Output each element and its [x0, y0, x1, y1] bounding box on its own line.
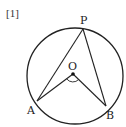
angle-marker-AOB — [67, 79, 79, 82]
circle-diagram: P O A B — [0, 0, 126, 127]
segment-OA — [37, 74, 73, 101]
label-A: A — [26, 104, 36, 117]
label-P: P — [80, 14, 88, 27]
label-B: B — [106, 109, 114, 122]
label-O: O — [68, 60, 77, 73]
